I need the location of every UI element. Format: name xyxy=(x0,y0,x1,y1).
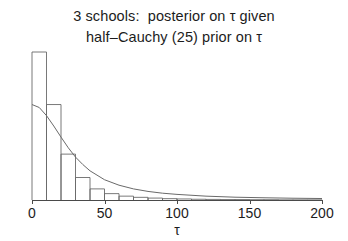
chart-title-line-1: 3 schools: posterior on τ given xyxy=(0,6,348,27)
x-tick-0 xyxy=(32,200,33,204)
chart-title-line-2: half–Cauchy (25) prior on τ xyxy=(0,27,348,48)
x-tick-200 xyxy=(322,200,323,204)
plot-area xyxy=(32,52,322,200)
x-tick-100 xyxy=(177,200,178,204)
x-tick-label-150: 150 xyxy=(238,205,261,222)
prior-density-curve xyxy=(32,52,322,200)
chart-figure: 3 schools: posterior on τ given half–Cau… xyxy=(0,0,348,241)
x-axis-title-label: τ xyxy=(168,222,180,238)
chart-title: 3 schools: posterior on τ given half–Cau… xyxy=(0,6,348,48)
x-tick-label-0: 0 xyxy=(28,205,36,222)
x-axis-title: τ xyxy=(0,222,348,238)
x-tick-150 xyxy=(250,200,251,204)
x-tick-label-50: 50 xyxy=(97,205,113,222)
x-tick-50 xyxy=(105,200,106,204)
x-tick-label-100: 100 xyxy=(165,205,188,222)
x-tick-label-200: 200 xyxy=(310,205,333,222)
